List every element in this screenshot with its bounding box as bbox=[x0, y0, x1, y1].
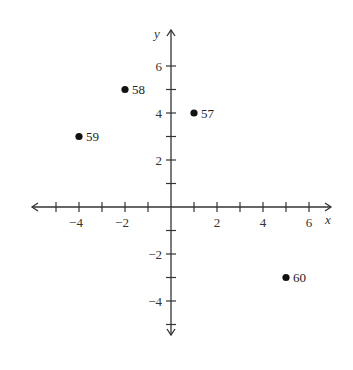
axes bbox=[32, 30, 331, 335]
point-marker-icon bbox=[75, 133, 82, 140]
data-point-58: 58 bbox=[121, 82, 145, 97]
point-marker-icon bbox=[282, 274, 289, 281]
y-tick-label: 6 bbox=[156, 59, 163, 74]
y-tick-label: 2 bbox=[156, 153, 163, 168]
ticks bbox=[56, 66, 309, 325]
data-points: 57585960 bbox=[75, 82, 306, 285]
point-label: 59 bbox=[86, 129, 99, 144]
point-label: 58 bbox=[132, 82, 145, 97]
x-tick-label: 4 bbox=[260, 215, 267, 230]
x-tick-label: −4 bbox=[69, 215, 83, 230]
y-tick-label: −2 bbox=[148, 247, 162, 262]
y-tick-label: 4 bbox=[156, 106, 163, 121]
data-point-59: 59 bbox=[75, 129, 99, 144]
point-marker-icon bbox=[121, 86, 128, 93]
x-tick-label: 2 bbox=[214, 215, 221, 230]
point-marker-icon bbox=[190, 109, 197, 116]
y-tick-label: −4 bbox=[148, 294, 162, 309]
x-tick-label: −2 bbox=[115, 215, 129, 230]
data-point-57: 57 bbox=[190, 106, 214, 121]
point-label: 57 bbox=[201, 106, 215, 121]
data-point-60: 60 bbox=[282, 270, 306, 285]
y-axis-label: y bbox=[152, 26, 160, 41]
x-axis-label: x bbox=[324, 212, 331, 227]
point-label: 60 bbox=[293, 270, 306, 285]
x-tick-label: 6 bbox=[306, 215, 313, 230]
coordinate-plane: −4−2246−4−2246 57585960 x y bbox=[0, 0, 353, 370]
tick-labels: −4−2246−4−2246 bbox=[69, 59, 313, 309]
